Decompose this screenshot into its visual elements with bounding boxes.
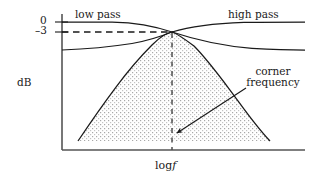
x-axis-label-variable: f xyxy=(172,159,176,172)
high-pass-label: high pass xyxy=(228,9,279,20)
corner-frequency-line-2: frequency xyxy=(244,77,302,88)
x-axis-label-prefix: log xyxy=(155,159,172,172)
y-axis-label: dB xyxy=(17,77,31,88)
y-tick-label-minus-3: –3 xyxy=(35,25,47,36)
x-axis-label: logf xyxy=(155,160,176,172)
corner-frequency-label: corner frequency xyxy=(244,66,302,89)
filter-response-figure: 0 –3 dB low pass high pass corner freque… xyxy=(0,0,322,186)
band-pass-shaded-region xyxy=(78,32,270,141)
low-pass-label: low pass xyxy=(75,9,121,20)
